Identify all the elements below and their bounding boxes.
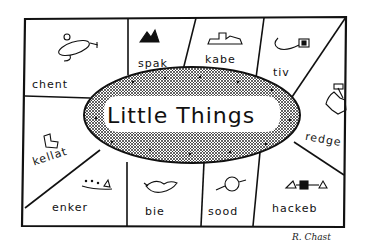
cell-label-kabe: kabe — [205, 53, 236, 66]
cell-label-bie: bie — [145, 205, 165, 218]
cell-label-sood: sood — [208, 205, 238, 218]
cell-label-enker: enker — [52, 201, 88, 214]
cartoon-title: Little Things — [107, 103, 255, 128]
cell-label-tiv: tiv — [273, 66, 290, 79]
artist-signature: R. Chast — [292, 232, 331, 242]
cell-label-chent: chent — [32, 78, 68, 91]
cell-label-hackeb: hackeb — [272, 202, 318, 215]
cell-label-spak: spak — [138, 57, 168, 70]
